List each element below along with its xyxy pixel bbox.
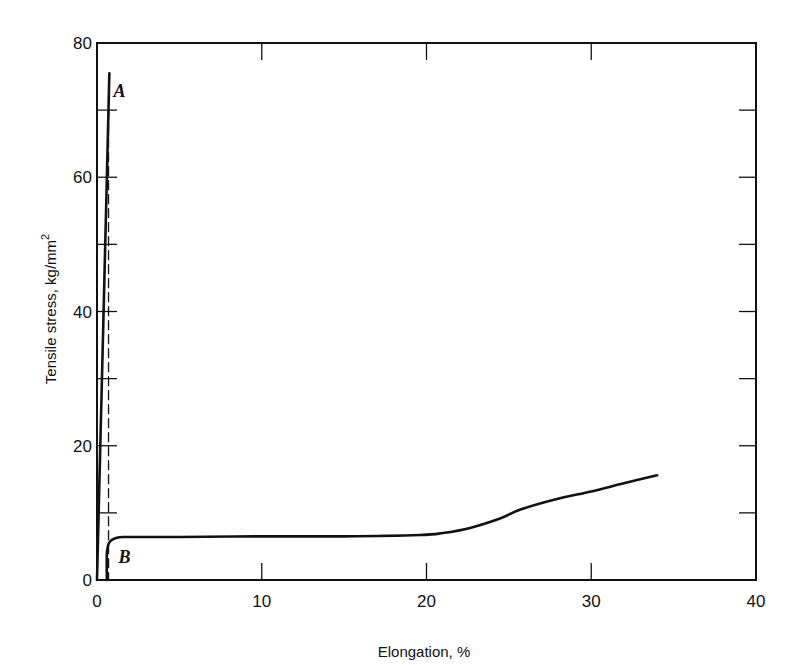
curve-label-b: B [117, 547, 130, 567]
curve-label-a: A [112, 81, 125, 101]
x-tick-label: 30 [582, 592, 601, 611]
data-series [97, 73, 657, 580]
x-tick-label: 0 [92, 592, 101, 611]
plot-border [97, 43, 756, 580]
y-tick-label: 40 [73, 303, 92, 322]
series-b [107, 475, 657, 580]
y-tick-label: 80 [73, 34, 92, 53]
y-tick-label: 60 [73, 168, 92, 187]
x-tick-label: 20 [417, 592, 436, 611]
x-tick-label: 10 [252, 592, 271, 611]
curve-annotations: AB [112, 81, 130, 568]
stress-strain-chart: 010203040020406080 AB Elongation, % Tens… [0, 0, 799, 665]
x-axis-title: Elongation, % [378, 643, 471, 660]
y-axis-title-superscript: 2 [39, 234, 51, 240]
plot-frame [97, 43, 756, 580]
y-axis-title: Tensile stress, kg/mm2 [39, 234, 59, 384]
y-tick-label: 20 [73, 437, 92, 456]
tick-labels: 010203040020406080 [73, 34, 765, 611]
axis-ticks [97, 43, 756, 580]
x-tick-label: 40 [747, 592, 766, 611]
y-axis-title-text: Tensile stress, kg/mm [42, 240, 59, 384]
y-tick-label: 0 [83, 571, 92, 590]
series-a [97, 73, 109, 580]
